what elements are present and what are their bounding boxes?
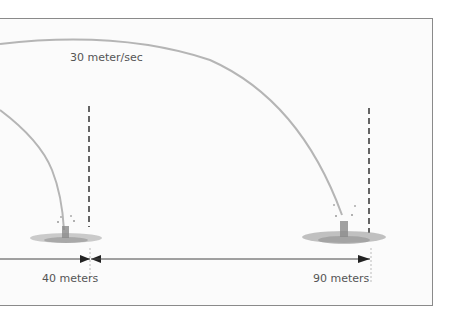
trajectory-arc-small xyxy=(0,110,64,230)
trajectory-arc-large xyxy=(0,40,342,215)
arrow-head-90m xyxy=(358,255,370,263)
distance-label-90m: 90 meters xyxy=(313,272,369,285)
arrow-head-40m xyxy=(80,255,90,263)
splash-icon-90m xyxy=(302,204,386,244)
speed-label: 30 meter/sec xyxy=(70,51,143,64)
splash-icon-40m xyxy=(30,215,102,243)
distance-label-40m: 40 meters xyxy=(42,272,98,285)
